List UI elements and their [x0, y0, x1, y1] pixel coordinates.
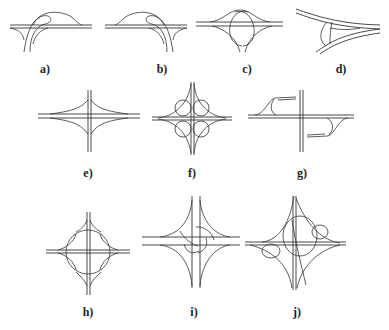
- diagram-h-roundabout: [46, 212, 130, 295]
- diagram-d-directional-y: [296, 9, 380, 54]
- label-f: f): [188, 166, 196, 181]
- label-a: a): [40, 62, 50, 77]
- diagram-j-combined: [245, 196, 346, 290]
- label-g: g): [297, 166, 307, 181]
- diagram-c-double-trumpet: [196, 10, 283, 52]
- label-d: d): [336, 62, 347, 77]
- label-h: h): [83, 305, 94, 320]
- diagram-e-diamond: [38, 90, 140, 152]
- label-j: j): [293, 305, 301, 320]
- diagram-b-trumpet: [105, 12, 187, 52]
- diagram-i-turbine: [142, 196, 240, 288]
- diagram-g-partial-cloverleaf: [248, 90, 354, 152]
- interchange-diagrams: [0, 0, 389, 330]
- label-b: b): [157, 62, 168, 77]
- label-c: c): [242, 62, 251, 77]
- label-e: e): [83, 166, 92, 181]
- diagram-f-cloverleaf: [152, 82, 232, 155]
- label-i: i): [190, 305, 197, 320]
- diagram-a-trumpet: [10, 12, 92, 52]
